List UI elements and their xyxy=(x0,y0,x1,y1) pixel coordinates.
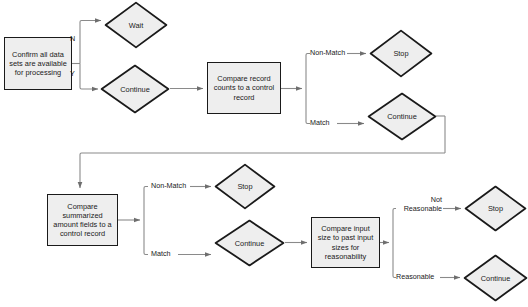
process-compare-record-counts-label: Compare record counts to a control recor… xyxy=(210,74,278,102)
edge-label-yes: Y xyxy=(70,70,75,79)
process-compare-input-size-label: Compare input size to past input sizes f… xyxy=(314,224,377,261)
decision-continue-3[interactable]: Continue xyxy=(214,219,285,267)
edge-label-match-2: Match xyxy=(151,250,171,259)
decision-continue-2[interactable]: Continue xyxy=(367,92,437,141)
decision-continue-1[interactable]: Continue xyxy=(100,64,170,114)
flowchart-canvas: Confirm all data sets are available for … xyxy=(0,0,528,307)
process-compare-summarized-amounts-label: Compare summarized amount fields to a co… xyxy=(50,202,115,239)
edge-label-reasonable: Reasonable xyxy=(396,273,434,282)
edge-label-match-1: Match xyxy=(310,119,330,128)
decision-continue-4[interactable]: Continue xyxy=(463,254,528,302)
process-confirm-data-sets[interactable]: Confirm all data sets are available for … xyxy=(4,37,72,90)
edge-label-no: N xyxy=(70,35,75,44)
process-compare-summarized-amounts[interactable]: Compare summarized amount fields to a co… xyxy=(47,194,118,246)
decision-stop-3[interactable]: Stop xyxy=(464,185,527,232)
edge-label-non-match-2: Non-Match xyxy=(151,182,186,191)
process-compare-input-size[interactable]: Compare input size to past input sizes f… xyxy=(311,217,380,268)
decision-stop-2[interactable]: Stop xyxy=(214,163,276,210)
edge-label-non-match-1: Non-Match xyxy=(310,49,345,58)
process-compare-record-counts[interactable]: Compare record counts to a control recor… xyxy=(207,62,281,114)
process-confirm-data-sets-label: Confirm all data sets are available for … xyxy=(7,50,69,78)
edge-label-not-reasonable-line2: Reasonable xyxy=(398,205,442,214)
decision-wait[interactable]: Wait xyxy=(104,1,168,49)
decision-stop-1[interactable]: Stop xyxy=(369,29,433,78)
